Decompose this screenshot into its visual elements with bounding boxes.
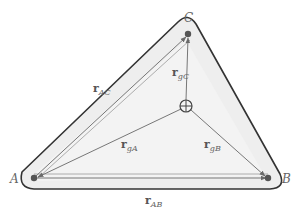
- point-a: [31, 175, 37, 181]
- label-r-ac: rAC: [93, 82, 111, 97]
- label-r-ab: rAB: [145, 194, 163, 209]
- label-b: B: [281, 172, 291, 186]
- triangle-diagram: A B C rAC rAB rgA rgB rgC: [0, 0, 302, 213]
- label-c: C: [184, 11, 193, 25]
- point-c: [185, 31, 191, 37]
- center-of-gravity-icon: [180, 100, 192, 112]
- point-b: [265, 175, 271, 181]
- label-a: A: [9, 172, 19, 186]
